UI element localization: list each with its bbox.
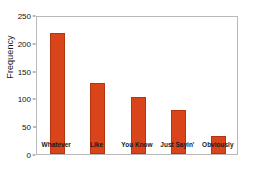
y-tick-50: 50 [22, 123, 36, 132]
x-tick-label-4: Obviously [202, 141, 233, 148]
y-tick-label: 200 [18, 39, 33, 48]
x-tick-label-0: Whatever [42, 141, 71, 148]
bar-0 [50, 33, 65, 154]
y-tick-mark [33, 43, 36, 44]
y-tick-200: 200 [18, 39, 36, 48]
plot-area [36, 16, 238, 155]
y-tick-label: 150 [18, 67, 33, 76]
bar-series [37, 17, 237, 154]
x-tick-label-1: Like [90, 141, 103, 148]
y-tick-label: 100 [18, 95, 33, 104]
y-tick-mark [33, 71, 36, 72]
x-tick-label-2: You Know [121, 141, 152, 148]
y-tick-250: 250 [18, 12, 36, 21]
y-tick-0: 0 [27, 151, 36, 160]
y-tick-mark [33, 16, 36, 17]
x-tick-label-3: Just Sayin' [160, 141, 194, 148]
y-tick-mark [33, 155, 36, 156]
bar-chart: Frequency 050100150200250 WhateverLikeYo… [0, 0, 255, 178]
y-tick-100: 100 [18, 95, 36, 104]
y-tick-mark [33, 127, 36, 128]
y-tick-label: 250 [18, 12, 33, 21]
y-tick-150: 150 [18, 67, 36, 76]
y-tick-label: 50 [22, 123, 33, 132]
y-tick-mark [33, 99, 36, 100]
y-axis-title: Frequency [5, 21, 15, 93]
